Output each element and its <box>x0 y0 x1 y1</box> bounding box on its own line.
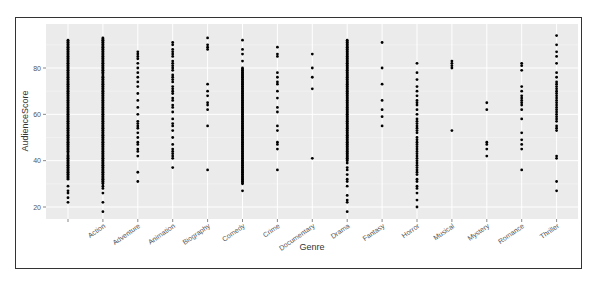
chart-frame: 20406080 ActionAdventureAnimationBiograp… <box>15 17 582 269</box>
y-tick-label: 20 <box>33 204 41 211</box>
x-tick-label: Fantasy <box>361 222 386 243</box>
genre-points <box>346 39 349 213</box>
y-tick-label: 40 <box>33 157 41 164</box>
genre-points <box>67 39 70 204</box>
scatter-plot: 20406080 ActionAdventureAnimationBiograp… <box>16 18 583 270</box>
x-tick-label: Crime <box>262 222 281 239</box>
x-tick-label: Mystery <box>466 222 491 243</box>
x-tick-label: Animation <box>147 222 177 246</box>
x-tick-label: Biography <box>181 222 212 247</box>
genre-points <box>171 41 174 169</box>
genre-points <box>102 36 105 213</box>
x-tick-label: Horror <box>400 222 421 239</box>
x-tick-label: Musical <box>432 222 456 242</box>
x-tick-label: Action <box>87 222 107 239</box>
x-axis-title: Genre <box>299 242 324 252</box>
x-tick-label: Adventure <box>111 222 141 246</box>
genre-points <box>241 39 244 192</box>
x-tick-label: Comedy <box>221 222 247 244</box>
x-tick-label: Romance <box>497 222 526 245</box>
y-axis: 20406080 <box>33 65 46 211</box>
y-tick-label: 60 <box>33 111 41 118</box>
y-tick-label: 80 <box>33 65 41 72</box>
x-tick-label: Drama <box>330 222 351 240</box>
x-tick-label: Thriller <box>539 222 561 240</box>
y-axis-title: AudienceScore <box>20 90 30 151</box>
